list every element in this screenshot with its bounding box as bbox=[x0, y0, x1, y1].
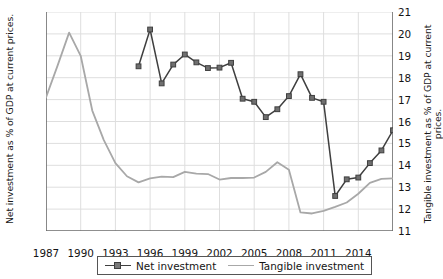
net-investment-marker bbox=[321, 99, 326, 104]
net-investment-marker bbox=[356, 175, 361, 180]
net-investment-marker bbox=[298, 72, 303, 77]
net-investment-marker bbox=[263, 115, 268, 120]
plot-svg bbox=[46, 12, 393, 231]
net-investment-marker bbox=[275, 107, 280, 112]
right-tick-label: 15 bbox=[398, 137, 438, 149]
net-investment-marker bbox=[240, 96, 245, 101]
legend-label-net-investment: Net investment bbox=[136, 260, 216, 272]
chart-legend: Net investment Tangible investment bbox=[97, 256, 372, 275]
net-investment-marker bbox=[310, 95, 315, 100]
net-investment-marker bbox=[217, 65, 222, 70]
right-tick-label: 21 bbox=[398, 6, 438, 18]
net-investment-marker bbox=[194, 60, 199, 65]
right-tick-label: 13 bbox=[398, 181, 438, 193]
right-tick-label: 20 bbox=[398, 28, 438, 40]
right-tick-label: 18 bbox=[398, 72, 438, 84]
x-tick-label: 1990 bbox=[67, 247, 93, 259]
right-tick-label: 19 bbox=[398, 50, 438, 62]
net-investment-marker bbox=[229, 60, 234, 65]
net-investment-marker bbox=[333, 194, 338, 199]
net-investment-marker bbox=[182, 52, 187, 57]
net-investment-marker bbox=[379, 148, 384, 153]
net-investment-marker bbox=[171, 62, 176, 67]
right-tick-label: 14 bbox=[398, 159, 438, 171]
right-tick-label: 17 bbox=[398, 94, 438, 106]
net-investment-marker bbox=[136, 64, 141, 69]
net-investment-marker bbox=[391, 128, 393, 133]
net-investment-marker bbox=[159, 81, 164, 86]
net-investment-marker bbox=[367, 161, 372, 166]
net-investment-swatch-icon bbox=[105, 261, 131, 271]
legend-item-tangible-investment[interactable]: Tangible investment bbox=[228, 260, 364, 272]
right-tick-label: 11 bbox=[398, 225, 438, 237]
right-tick-label: 12 bbox=[398, 203, 438, 215]
net-investment-marker bbox=[206, 66, 211, 71]
legend-label-tangible-investment: Tangible investment bbox=[259, 260, 364, 272]
plot-area: 7.06.56.05.55.04.54.03.53.02.52.0 212019… bbox=[46, 12, 393, 231]
net-investment-marker bbox=[287, 94, 292, 99]
tangible-investment-swatch-icon bbox=[228, 261, 254, 271]
right-tick-label: 16 bbox=[398, 116, 438, 128]
net-investment-marker bbox=[252, 99, 257, 104]
legend-item-net-investment[interactable]: Net investment bbox=[105, 260, 216, 272]
x-tick-label: 1987 bbox=[33, 247, 59, 259]
net-investment-marker bbox=[344, 177, 349, 182]
left-axis-title: Net investment as % of GDP at current pr… bbox=[5, 8, 15, 230]
net-investment-marker bbox=[148, 27, 153, 32]
gridlines bbox=[46, 12, 393, 231]
